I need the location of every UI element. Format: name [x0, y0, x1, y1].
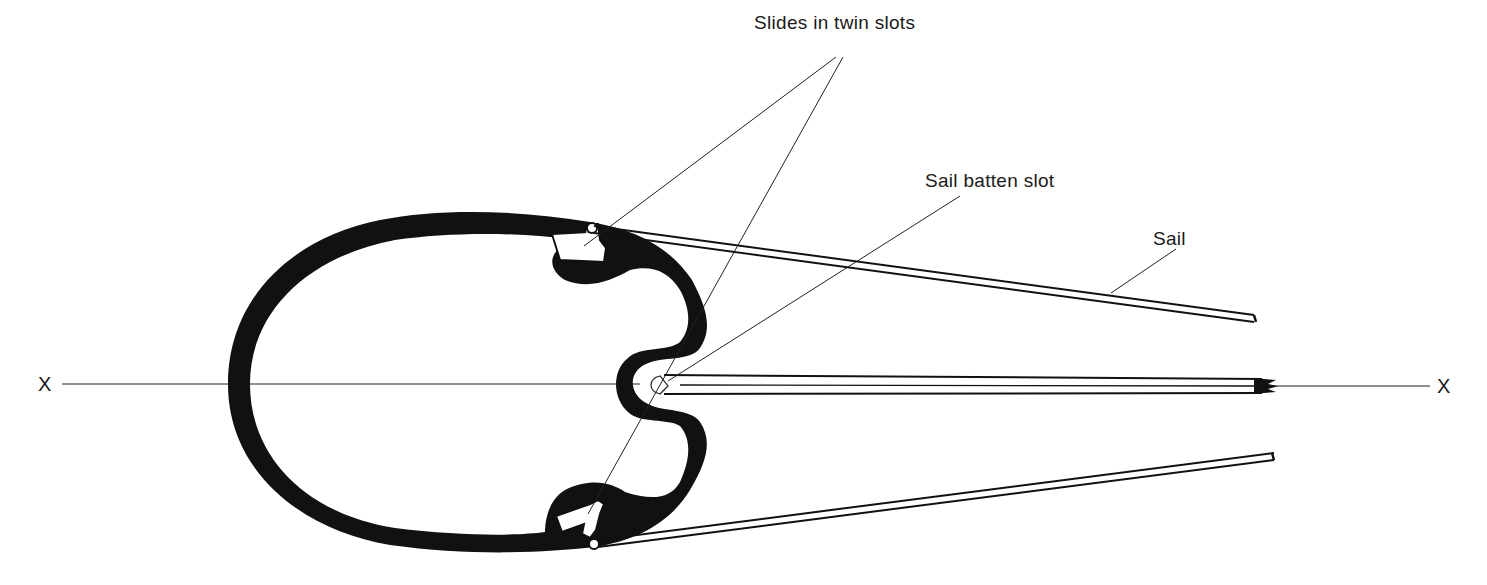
center-batten-sail	[664, 375, 1278, 394]
mast-section-diagram	[0, 0, 1487, 585]
label-slides-in-twin-slots: Slides in twin slots	[754, 13, 915, 32]
label-sail-batten-slot: Sail batten slot	[925, 171, 1054, 190]
mast-profile	[228, 212, 707, 552]
trailing-edge-stitching	[1254, 378, 1278, 394]
mast-wall	[228, 212, 707, 552]
leader-lines	[584, 57, 1176, 514]
slides-leader-top	[584, 57, 836, 246]
axis-marker-left: X	[38, 374, 51, 394]
batten-slot-leader	[668, 196, 960, 381]
slides-leader-bottom	[588, 57, 843, 514]
sail-leader	[1111, 249, 1176, 293]
label-sail: Sail	[1153, 229, 1186, 248]
axis-marker-right: X	[1437, 376, 1450, 396]
